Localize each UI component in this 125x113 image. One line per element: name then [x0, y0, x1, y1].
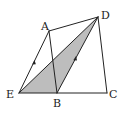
label-a: A [40, 20, 50, 33]
diagram-canvas: A D E B C [0, 0, 125, 113]
label-c: C [109, 88, 117, 101]
geometry-figure: A D E B C [0, 0, 125, 113]
label-b: B [53, 97, 61, 110]
label-d: D [101, 9, 110, 22]
parallel-arrow-icon [32, 60, 36, 65]
label-e: E [6, 88, 14, 101]
segment-dc [98, 17, 107, 93]
